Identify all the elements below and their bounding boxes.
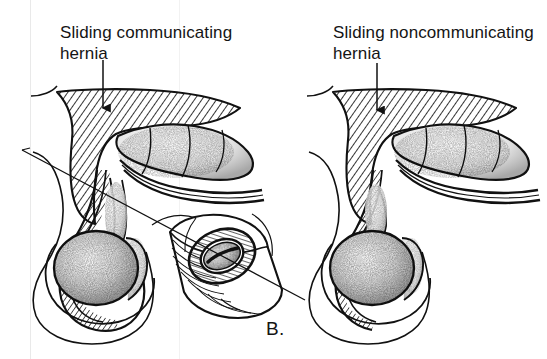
label-left-line2: hernia [60, 44, 108, 63]
figure-page: Sliding communicatinghernia Sliding nonc… [0, 0, 547, 359]
inset-leader-tick-start [22, 148, 30, 150]
bowel-stipple-left [118, 126, 234, 178]
label-sliding-communicating-hernia: Sliding communicatinghernia [60, 22, 232, 64]
right-panel-drawing [307, 86, 540, 344]
body-contour-right [307, 86, 333, 96]
label-right-line2: hernia [333, 44, 381, 63]
body-contour-left [31, 86, 57, 96]
label-right-line1: Sliding noncommunicating [333, 23, 534, 42]
label-sliding-noncommunicating-hernia: Sliding noncommunicatinghernia [333, 22, 534, 64]
figure-caption: B. [266, 318, 285, 340]
bowel-stipple-right [394, 126, 510, 178]
label-left-line1: Sliding communicating [60, 23, 232, 42]
